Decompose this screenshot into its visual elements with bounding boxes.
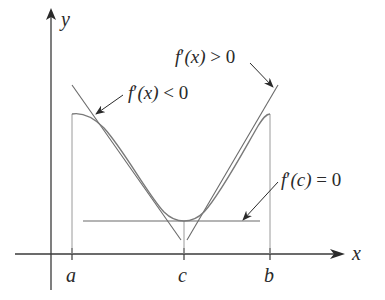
left-tangent-line [72, 85, 181, 240]
annotation-decreasing: f′(x) < 0 [128, 82, 188, 104]
y-axis-label: y [59, 8, 70, 31]
arrow-critical [243, 182, 278, 220]
arrow-increasing [250, 63, 273, 87]
tick-label-b: b [264, 264, 274, 286]
x-axis-label: x [351, 242, 361, 264]
tick-label-c: c [178, 264, 187, 286]
arrow-decreasing [96, 95, 123, 114]
annotation-increasing: f′(x) > 0 [175, 46, 235, 68]
right-tangent-line [187, 85, 278, 240]
annotation-critical: f′(c) = 0 [281, 169, 341, 191]
boundary-lines [72, 114, 270, 254]
tick-label-a: a [66, 264, 76, 286]
function-curve [72, 114, 270, 221]
mean-value-diagram: y x a c b f′(x) > 0 f′(x) < 0 f′(c) = 0 [0, 0, 385, 300]
